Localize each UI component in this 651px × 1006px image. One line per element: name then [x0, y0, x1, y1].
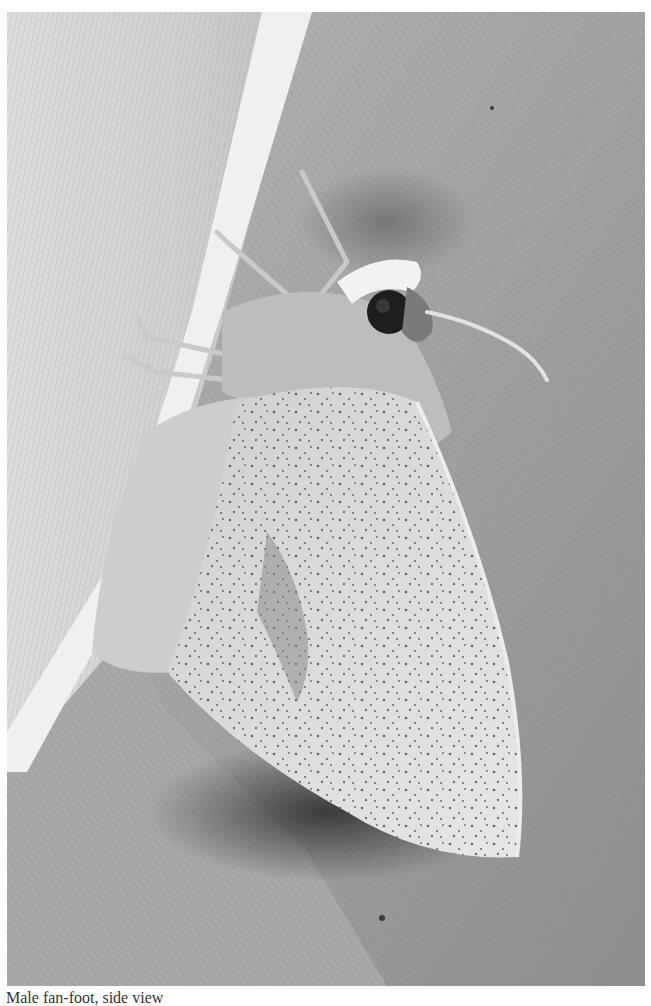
moth-photograph [7, 12, 645, 986]
photo-caption: Male fan-foot, side view [6, 990, 163, 1006]
moth-scene [7, 12, 645, 986]
